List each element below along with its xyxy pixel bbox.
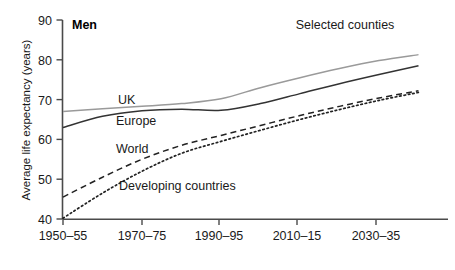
series-label-europe: Europe	[116, 114, 156, 128]
x-tick-label-2010-15: 2010–15	[273, 229, 322, 243]
y-axis-title: Average life expectancy (years)	[20, 39, 32, 200]
y-tick-label-70: 70	[38, 94, 52, 108]
x-tick-label-1990-95: 1990–95	[195, 229, 244, 243]
chart-title: Selected counties	[296, 18, 395, 32]
x-axis-ticks	[63, 219, 376, 225]
series-label-uk: UK	[118, 93, 136, 107]
y-tick-label-80: 80	[38, 54, 52, 68]
x-tick-label-2030-35: 2030–35	[352, 229, 401, 243]
chart-container: 90 80 70 60 50 40 1950–55 1970–75 1990–9…	[0, 0, 455, 270]
x-tick-label-1970-75: 1970–75	[118, 229, 167, 243]
panel-label-men: Men	[72, 18, 97, 32]
y-tick-label-50: 50	[38, 173, 52, 187]
series-layer	[63, 55, 419, 219]
x-tick-label-1950-55: 1950–55	[39, 229, 88, 243]
y-axis-ticks	[57, 20, 63, 219]
y-tick-label-60: 60	[38, 133, 52, 147]
y-tick-label-90: 90	[38, 14, 52, 28]
life-expectancy-line-chart: 90 80 70 60 50 40 1950–55 1970–75 1990–9…	[0, 0, 455, 270]
series-label-developing-countries: Developing countries	[119, 179, 236, 193]
series-label-world: World	[116, 142, 148, 156]
y-tick-label-40: 40	[38, 213, 52, 227]
